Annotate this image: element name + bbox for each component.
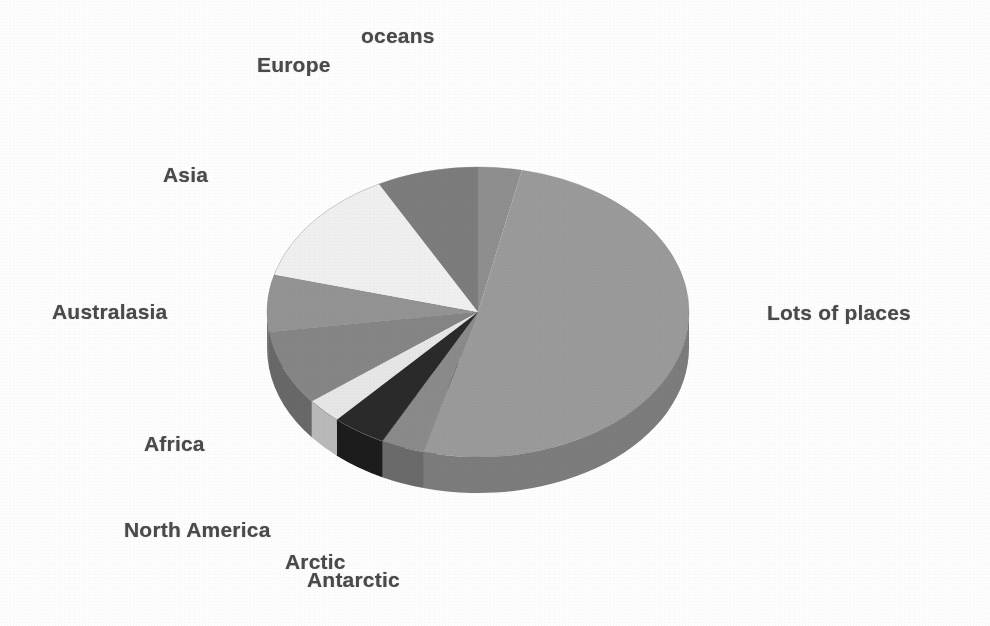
chart-canvas: oceans Europe Asia Australasia Africa No…	[0, 0, 990, 626]
slice-label-africa: Africa	[144, 432, 205, 456]
pie-top-face-group	[267, 167, 689, 457]
slice-label-oceans: oceans	[361, 24, 435, 48]
slice-label-asia: Asia	[163, 163, 208, 187]
slice-label-australasia: Australasia	[52, 300, 167, 324]
slice-label-antarctic: Antarctic	[307, 568, 400, 592]
slice-label-north-america: North America	[124, 518, 271, 542]
slice-label-europe: Europe	[257, 53, 331, 77]
slice-label-lots-of-places: Lots of places	[767, 301, 911, 325]
